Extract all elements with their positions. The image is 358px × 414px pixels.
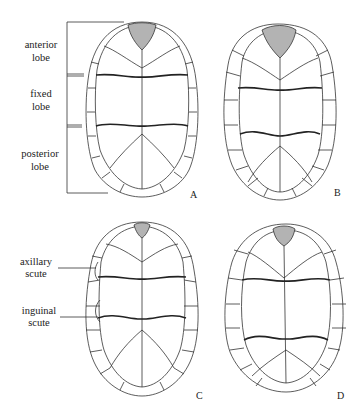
axillary-scute-label-line1: axillary (20, 256, 53, 267)
panel-b-shell (224, 24, 336, 200)
panel-c-shell (86, 222, 198, 396)
scute-leaders (58, 268, 98, 317)
inguinal-scute-label-line2: scute (28, 317, 50, 328)
fixed-lobe-label-line2: lobe (32, 101, 50, 112)
posterior-lobe-label-line1: posterior (21, 148, 59, 159)
axillary-scute-label-line2: scute (25, 268, 47, 279)
panel-a-shell (86, 22, 198, 197)
panel-label-d: D (337, 390, 344, 401)
posterior-lobe-label-line2: lobe (31, 161, 49, 172)
anterior-lobe-label-line2: lobe (32, 52, 50, 63)
turtle-plastron-figure: anterior lobe fixed lobe posterior lobe … (0, 0, 358, 414)
anterior-lobe-label-line1: anterior (25, 39, 58, 50)
panel-label-a: A (190, 189, 198, 200)
inguinal-scute-label-line1: inguinal (22, 305, 56, 316)
panel-label-c: C (196, 390, 203, 401)
panel-label-b: B (334, 187, 341, 198)
fixed-lobe-label-line1: fixed (30, 88, 52, 99)
panel-d-shell (225, 224, 346, 392)
